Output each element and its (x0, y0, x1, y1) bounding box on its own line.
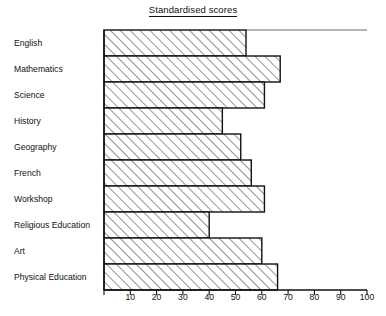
plot-area (0, 0, 386, 316)
axis-tick-label: 100 (360, 292, 374, 302)
axis-tick-label: 50 (231, 292, 241, 302)
axis-tick-label: 20 (152, 292, 162, 302)
bar (104, 264, 278, 290)
axis-tick-label: 60 (257, 292, 267, 302)
axis-tick-label: 70 (283, 292, 293, 302)
bar (104, 108, 222, 134)
bar (104, 212, 209, 238)
bar-chart: Standardised scores EnglishMathematicsSc… (0, 0, 386, 316)
axis-tick-label: 90 (336, 292, 346, 302)
axis-tick-label: 30 (178, 292, 188, 302)
bar (104, 160, 251, 186)
bars-group (104, 30, 280, 290)
bar (104, 56, 280, 82)
value-axis-labels: 102030405060708090100 (0, 292, 386, 308)
bar (104, 186, 264, 212)
bar (104, 30, 246, 56)
axis-tick-label: 80 (310, 292, 320, 302)
axis-tick-label: 10 (126, 292, 136, 302)
bar (104, 82, 264, 108)
bar (104, 238, 262, 264)
axis-tick-label: 40 (204, 292, 214, 302)
bar (104, 134, 241, 160)
